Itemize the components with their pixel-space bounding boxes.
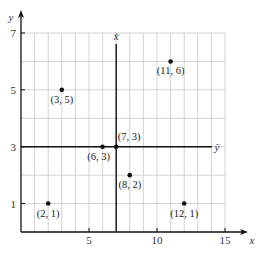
y-tick-label: 7: [11, 27, 17, 39]
data-point: [114, 144, 119, 149]
x-axis-label: x: [249, 234, 255, 246]
x-tick-label: 5: [86, 234, 92, 246]
data-point: [60, 88, 65, 93]
data-point: [46, 201, 51, 206]
y-tick-label: 3: [11, 141, 17, 153]
data-point-label: (2, 1): [37, 208, 60, 220]
data-point-label: (6, 3): [87, 151, 110, 163]
y-axis-label: y: [8, 11, 14, 23]
x-tick-label: 15: [220, 234, 232, 246]
data-point: [100, 144, 105, 149]
data-points: (2, 1)(3, 5)(6, 3)(7, 3)(8, 2)(11, 6)(12…: [37, 59, 199, 219]
data-point: [168, 59, 173, 64]
data-point-label: (7, 3): [118, 131, 141, 143]
data-point-label: (8, 2): [118, 179, 141, 191]
data-point-label: (11, 6): [157, 65, 185, 77]
x-mean-label: x̄: [113, 30, 119, 42]
data-point: [128, 173, 133, 178]
y-tick-label: 5: [11, 84, 17, 96]
data-point-label: (12, 1): [170, 208, 198, 220]
x-tick-label: 10: [152, 234, 164, 246]
scatter-chart: xy x̄ȳ 510151357 (2, 1)(3, 5)(6, 3)(7, 3…: [0, 0, 263, 253]
data-point-label: (3, 5): [50, 94, 73, 106]
y-tick-label: 1: [11, 198, 17, 210]
data-point: [182, 201, 187, 206]
